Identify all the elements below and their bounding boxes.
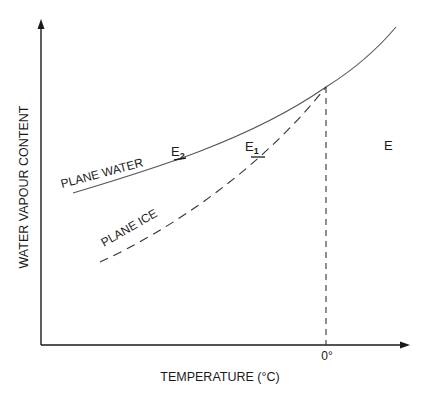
e2-subscript: 2 xyxy=(180,151,185,161)
e2-label: E2 xyxy=(171,144,185,161)
e1-label: E1 xyxy=(245,139,259,156)
e1-letter: E xyxy=(245,139,254,154)
x-axis-arrow-icon xyxy=(400,342,410,349)
y-axis-arrow-icon xyxy=(38,19,45,29)
diagram-canvas: WATER VAPOUR CONTENT TEMPERATURE (°C) 0°… xyxy=(0,0,427,399)
plane-water-label: PLANE WATER xyxy=(59,155,145,191)
x-axis-label: TEMPERATURE (°C) xyxy=(160,370,279,384)
plane-ice-label: PLANE ICE xyxy=(99,206,160,249)
e1-subscript: 1 xyxy=(254,146,259,156)
x-tick-zero: 0° xyxy=(321,349,333,363)
e2-letter: E xyxy=(171,144,180,159)
y-axis-label: WATER VAPOUR CONTENT xyxy=(17,105,31,268)
e-label: E xyxy=(384,138,393,153)
